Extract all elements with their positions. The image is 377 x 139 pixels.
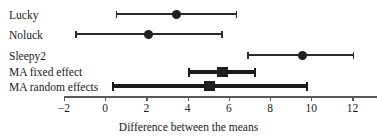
x-axis-tick	[229, 96, 230, 101]
point-estimate-marker	[172, 10, 181, 19]
x-axis-tick-label: 12	[347, 102, 359, 115]
ci-row-noluck	[0, 27, 377, 41]
x-axis-tick	[146, 96, 147, 101]
point-estimate-marker	[298, 51, 307, 60]
point-estimate-marker	[204, 81, 215, 91]
ci-row-sleepy2	[0, 48, 377, 62]
ci-cap-lower	[188, 68, 190, 77]
x-axis-tick-label: 6	[226, 102, 232, 115]
ci-cap-upper	[236, 11, 238, 18]
x-axis-tick	[311, 96, 312, 101]
x-axis-line	[64, 96, 377, 98]
x-axis-tick-label: 10	[305, 102, 317, 115]
plot-area	[0, 0, 377, 96]
x-axis-tick	[105, 96, 106, 101]
ci-row-lucky	[0, 7, 377, 21]
ci-cap-upper	[254, 68, 256, 77]
x-axis-tick	[352, 96, 353, 101]
x-axis-tick	[188, 96, 189, 101]
point-estimate-marker	[144, 30, 153, 39]
ci-cap-lower	[112, 82, 114, 91]
x-axis-tick	[64, 96, 65, 101]
x-axis-tick-label: 8	[267, 102, 273, 115]
point-estimate-marker	[217, 67, 228, 77]
x-axis-tick-label: 0	[102, 102, 108, 115]
ci-row-ma-fixed-effect	[0, 65, 377, 79]
ci-cap-upper	[221, 31, 223, 38]
x-axis-tick	[270, 96, 271, 101]
x-axis-title: Difference between the means	[0, 120, 377, 134]
x-axis-tick-label: 2	[144, 102, 150, 115]
ci-cap-lower	[116, 11, 118, 18]
ci-cap-lower	[75, 31, 77, 38]
ci-cap-upper	[353, 52, 355, 59]
x-axis-tick-label: 4	[185, 102, 191, 115]
ci-cap-upper	[306, 82, 308, 91]
forest-plot: Lucky Noluck Sleepy2 MA fixed effect MA …	[0, 0, 377, 139]
x-axis-tick-label: −2	[58, 102, 70, 115]
ci-row-ma-random-effects	[0, 79, 377, 93]
ci-cap-lower	[247, 52, 249, 59]
